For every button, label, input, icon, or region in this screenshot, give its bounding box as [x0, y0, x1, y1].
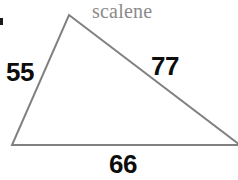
triangle-figure: scalene 55 77 66 — [0, 0, 238, 180]
shape-name-label: scalene — [92, 1, 152, 21]
side-length-label-left: 55 — [6, 59, 34, 85]
scalene-triangle-outline — [12, 15, 238, 145]
side-length-label-right: 77 — [151, 53, 179, 79]
side-length-label-base: 66 — [109, 151, 137, 177]
crop-artifact-mark — [0, 18, 3, 25]
